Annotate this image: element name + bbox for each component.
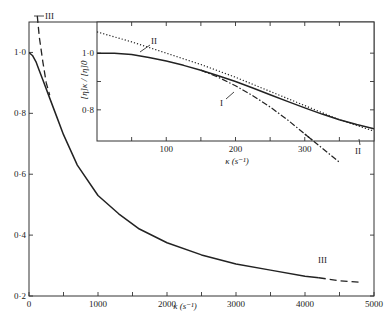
x-tick-label: 300 — [298, 144, 312, 154]
x-tick-label: 100 — [160, 144, 174, 154]
label-I: I — [220, 98, 223, 108]
label-II-bottom: II — [355, 146, 361, 156]
label-III-bottom: III — [318, 255, 327, 265]
x-tick-label: 4000 — [296, 299, 315, 309]
x-axis-label: κ (s⁻¹) — [173, 301, 197, 311]
y-tick-label: 0·8 — [82, 105, 94, 115]
label-III-top: III — [45, 11, 54, 21]
x-axis-label: κ (s⁻¹) — [225, 156, 249, 166]
label-II-top: II — [151, 36, 157, 46]
y-tick-label: 0·8 — [14, 108, 26, 118]
x-tick-label: 5000 — [365, 299, 384, 309]
inset-y-axis-label: [η]κ / [η]0 — [79, 60, 89, 99]
y-tick-label: 0·4 — [14, 230, 26, 240]
y-tick-label: 0·6 — [14, 169, 26, 179]
y-tick-label: 1·0 — [82, 48, 94, 58]
x-tick-label: 3000 — [227, 299, 246, 309]
x-tick-label: 1000 — [89, 299, 108, 309]
y-tick-label: 0·2 — [14, 291, 26, 301]
x-tick-label: 200 — [229, 144, 243, 154]
inset-plot: 1002003000·81·0κ (s⁻¹)[η]κ / [η]0IIIII — [79, 22, 374, 166]
chart: 0100020003000400050000·20·40·60·81·0κ (s… — [0, 0, 390, 321]
series-III-line — [319, 278, 360, 283]
x-tick-label: 0 — [27, 299, 32, 309]
y-tick-label: 1·0 — [14, 47, 26, 57]
